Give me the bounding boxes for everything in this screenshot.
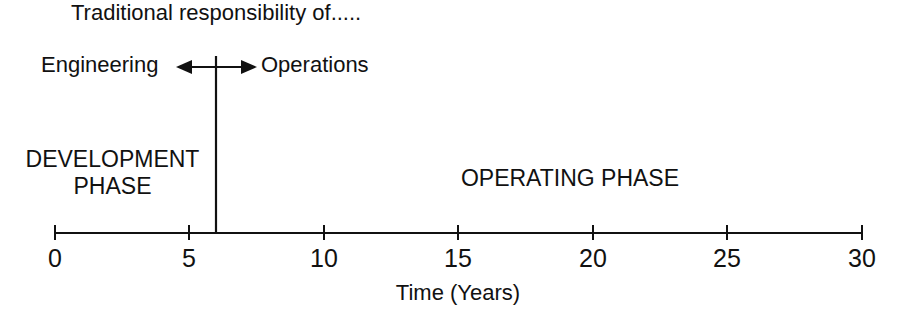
diagram-vector-layer [0, 0, 899, 327]
axis-title: Time (Years) [378, 281, 538, 305]
axis-tick-label-30: 30 [832, 244, 892, 273]
axis-tick-label-10: 10 [294, 244, 354, 273]
arrow-right-icon [241, 60, 257, 74]
axis-tick-label-20: 20 [563, 244, 623, 273]
axis-tick-label-5: 5 [159, 244, 219, 273]
axis-tick-label-25: 25 [697, 244, 757, 273]
timeline-diagram: Traditional responsibility of..... Engin… [0, 0, 899, 327]
axis-tick-label-0: 0 [25, 244, 85, 273]
arrow-left-icon [176, 60, 192, 74]
axis-tick-label-15: 15 [428, 244, 488, 273]
